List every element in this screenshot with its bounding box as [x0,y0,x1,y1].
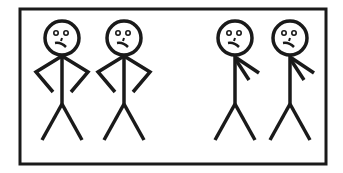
eye-right [64,31,68,35]
leg-right [235,104,255,140]
leg-right [124,104,144,140]
arm-left [98,56,124,92]
figure-2 [98,21,150,140]
eye-right [237,31,241,35]
figure-4 [270,21,314,140]
leg-left [42,104,62,140]
mouth-frown [283,43,294,47]
arm-right [62,56,88,92]
stick-figure-illustration [0,0,343,173]
leg-left [270,104,290,140]
eye-right [126,31,130,35]
eye-left [282,31,286,35]
eye-left [116,31,120,35]
eye-right [292,31,296,35]
eye-left [227,31,231,35]
mouth-frown [228,43,239,47]
figure-3 [215,21,259,140]
arm-right [124,56,150,92]
nose [61,38,62,41]
leg-left [104,104,124,140]
arm-left [36,56,62,92]
nose [289,38,290,41]
leg-right [290,104,310,140]
leg-left [215,104,235,140]
frame-border [20,9,326,164]
nose [234,38,235,41]
mouth-frown [55,43,66,47]
eye-left [54,31,58,35]
figure-1 [36,21,88,140]
nose [123,38,124,41]
mouth-frown [117,43,128,47]
leg-right [62,104,82,140]
